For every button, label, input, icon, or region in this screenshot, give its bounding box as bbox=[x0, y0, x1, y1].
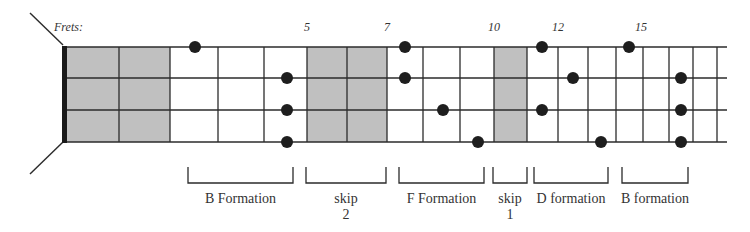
shaded-region bbox=[66, 47, 170, 142]
note-dot bbox=[623, 41, 635, 53]
note-dot bbox=[281, 104, 293, 116]
note-dot bbox=[281, 136, 293, 148]
formation-bracket: skip2 bbox=[306, 167, 386, 222]
note-dot bbox=[567, 72, 579, 84]
formation-bracket: B Formation bbox=[188, 167, 293, 206]
note-dot bbox=[536, 41, 548, 53]
bracket-label-sub: 2 bbox=[343, 207, 350, 222]
note-dot bbox=[595, 136, 607, 148]
note-dot bbox=[675, 104, 687, 116]
fret-number: 15 bbox=[635, 20, 647, 34]
formation-bracket: skip1 bbox=[493, 167, 527, 222]
bracket-label: D formation bbox=[537, 191, 606, 206]
fret-numbers: 57101215 bbox=[304, 20, 647, 34]
note-dot bbox=[399, 41, 411, 53]
fret-number: 12 bbox=[552, 20, 564, 34]
frets-label: Frets: bbox=[53, 20, 83, 34]
bracket-label: skip bbox=[498, 191, 521, 206]
fret-number: 10 bbox=[488, 20, 500, 34]
shaded-region bbox=[494, 47, 527, 142]
formation-bracket: B formation bbox=[621, 167, 689, 206]
note-dot bbox=[536, 104, 548, 116]
headstock-lines bbox=[30, 13, 63, 174]
bracket-label: F Formation bbox=[407, 191, 477, 206]
bracket-label: skip bbox=[334, 191, 357, 206]
fret-number: 5 bbox=[304, 20, 310, 34]
formation-bracket: D formation bbox=[534, 167, 608, 206]
bracket-label: B Formation bbox=[205, 191, 276, 206]
note-dot bbox=[399, 72, 411, 84]
bracket-label: B formation bbox=[621, 191, 689, 206]
note-dot bbox=[437, 104, 449, 116]
fret-number: 7 bbox=[384, 20, 391, 34]
note-dot bbox=[675, 136, 687, 148]
shaded-fret-regions bbox=[66, 47, 527, 142]
note-dot bbox=[189, 41, 201, 53]
nut bbox=[62, 46, 67, 143]
formation-bracket: F Formation bbox=[399, 167, 484, 206]
note-dot bbox=[675, 72, 687, 84]
note-dot bbox=[472, 136, 484, 148]
fret-lines bbox=[119, 47, 717, 142]
formation-brackets: B Formationskip2F Formationskip1D format… bbox=[188, 167, 689, 222]
fretboard-diagram: Frets: 57101215 B Formationskip2F Format… bbox=[0, 0, 750, 232]
bracket-label-sub: 1 bbox=[507, 207, 514, 222]
note-dot bbox=[281, 72, 293, 84]
